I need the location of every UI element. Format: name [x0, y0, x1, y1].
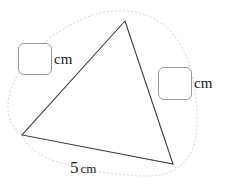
- unit-label-right-side: cm: [194, 76, 212, 91]
- answer-box-right-side[interactable]: [158, 67, 192, 100]
- answer-box-left-side[interactable]: [18, 43, 52, 75]
- base-measurement-unit: cm: [81, 161, 97, 176]
- unit-label-left-side: cm: [54, 52, 72, 67]
- geometry-figure-canvas: cm cm 5cm: [0, 0, 230, 190]
- base-measurement-value: 5: [70, 158, 79, 177]
- answer-box-right-value[interactable]: [159, 68, 191, 99]
- figure-drawing: [0, 0, 230, 190]
- answer-box-left-value[interactable]: [19, 44, 51, 74]
- base-measurement-label: 5cm: [70, 159, 96, 176]
